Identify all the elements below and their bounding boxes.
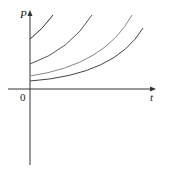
curve-2 [30,15,92,64]
origin-label: 0 [20,91,26,103]
y-axis-label: P [19,8,27,20]
curve-1 [30,15,53,39]
growth-diagram: P 0 t [0,0,169,178]
y-axis-arrow-icon [28,10,33,16]
x-axis-label: t [150,91,154,103]
